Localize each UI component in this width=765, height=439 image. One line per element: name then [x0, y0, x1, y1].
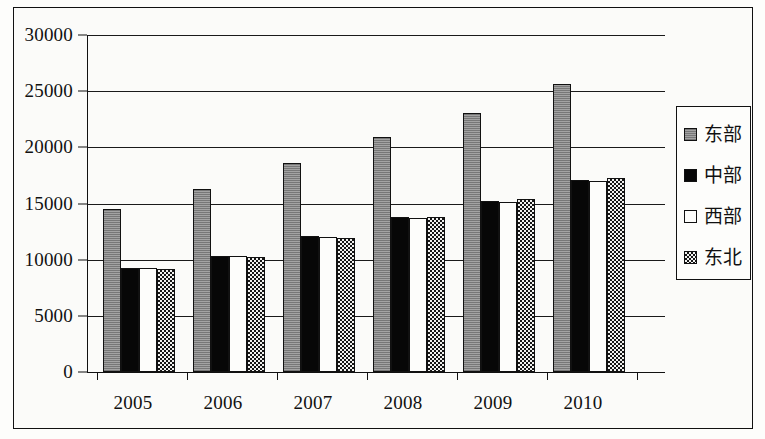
y-tick-label: 25000: [25, 80, 74, 102]
x-tick-mark: [457, 372, 458, 380]
bar-2010-东部: [553, 84, 571, 372]
bar-2005-西部: [139, 268, 157, 372]
y-tick-label: 15000: [25, 193, 74, 215]
bar-2005-东部: [103, 209, 121, 372]
bar-2007-中部: [301, 236, 319, 372]
x-axis-line: [87, 372, 665, 373]
y-tick-label: 30000: [25, 24, 74, 46]
legend-label: 东部: [704, 125, 742, 144]
x-tick-mark: [187, 372, 188, 380]
x-tick-mark: [277, 372, 278, 380]
y-tick-label: 10000: [25, 249, 74, 271]
x-tick-mark: [547, 372, 548, 380]
chart-legend: 东部中部西部东北: [676, 106, 751, 280]
bar-2009-东北: [517, 199, 535, 372]
y-tick-mark: [78, 259, 87, 260]
bar-2008-西部: [409, 218, 427, 372]
bar-2006-东部: [193, 189, 211, 372]
bar-2005-东北: [157, 269, 175, 372]
bar-2007-东部: [283, 163, 301, 372]
plot-area: [87, 35, 665, 372]
x-tick-label-2008: 2008: [384, 392, 423, 414]
black-swatch: [684, 169, 697, 182]
bar-2006-西部: [229, 256, 247, 372]
legend-item-东北: 东北: [677, 237, 750, 278]
legend-label: 东北: [704, 248, 742, 267]
y-tick-mark: [78, 203, 87, 204]
y-tick-label: 5000: [34, 305, 73, 327]
legend-item-中部: 中部: [677, 155, 750, 196]
bar-2007-东北: [337, 238, 355, 372]
bar-2010-中部: [571, 180, 589, 372]
bar-2007-西部: [319, 237, 337, 372]
legend-item-东部: 东部: [677, 114, 750, 155]
bar-2009-东部: [463, 113, 481, 372]
y-tick-mark: [78, 315, 87, 316]
legend-item-西部: 西部: [677, 196, 750, 237]
bar-2008-东部: [373, 137, 391, 372]
y-tick-label: 0: [63, 361, 73, 383]
x-tick-mark: [97, 372, 98, 380]
bar-2008-东北: [427, 217, 445, 372]
bar-2006-东北: [247, 257, 265, 372]
checker-swatch: [684, 251, 697, 264]
x-tick-label-2005: 2005: [114, 392, 153, 414]
bar-2005-中部: [121, 268, 139, 372]
bar-2009-中部: [481, 201, 499, 372]
y-tick-mark: [78, 35, 87, 36]
chart-figure: 050001000015000200002500030000 200520062…: [0, 0, 765, 439]
y-tick-mark: [78, 91, 87, 92]
x-tick-label-2010: 2010: [564, 392, 603, 414]
legend-label: 西部: [704, 207, 742, 226]
y-tick-mark: [78, 147, 87, 148]
x-tick-label-2009: 2009: [474, 392, 513, 414]
x-tick-mark: [637, 372, 638, 380]
bar-2006-中部: [211, 256, 229, 372]
white-swatch: [684, 210, 697, 223]
bar-2008-中部: [391, 217, 409, 372]
legend-label: 中部: [704, 166, 742, 185]
gray-swatch: [684, 128, 697, 141]
x-tick-label-2007: 2007: [294, 392, 333, 414]
bar-2010-东北: [607, 178, 625, 372]
y-tick-label: 20000: [25, 136, 74, 158]
x-tick-label-2006: 2006: [204, 392, 243, 414]
x-tick-mark: [367, 372, 368, 380]
y-tick-mark: [78, 372, 87, 373]
bar-2009-西部: [499, 202, 517, 372]
bar-2010-西部: [589, 181, 607, 372]
